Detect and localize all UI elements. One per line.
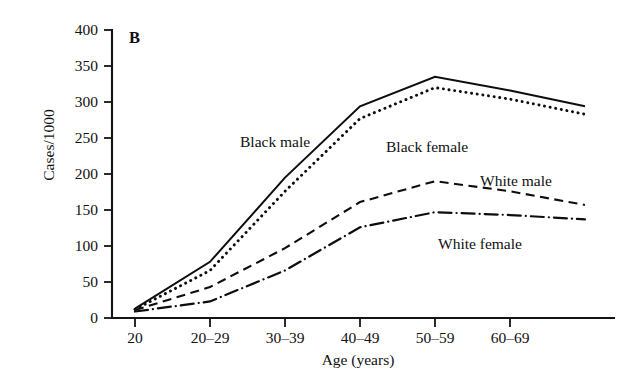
series-line-black-female <box>135 88 585 310</box>
y-axis-tick-label: 300 <box>52 93 98 111</box>
panel-letter: B <box>129 28 140 48</box>
x-axis-tick-label: 30–39 <box>242 329 328 347</box>
y-axis-tick-label: 150 <box>52 201 98 219</box>
x-axis-tick-label: 20 <box>92 329 178 347</box>
y-axis-ticks <box>104 30 112 318</box>
series-label-black-male: Black male <box>240 133 310 151</box>
y-axis-tick-label: 200 <box>52 165 98 183</box>
x-axis-tick-label: 40–49 <box>317 329 403 347</box>
y-axis-tick-label: 400 <box>52 21 98 39</box>
x-axis-tick-label: 20–29 <box>167 329 253 347</box>
y-axis-tick-label: 50 <box>52 273 98 291</box>
y-axis-tick-label: 350 <box>52 57 98 75</box>
series-label-white-female: White female <box>438 235 522 253</box>
x-axis-tick-label: 50–59 <box>392 329 478 347</box>
y-axis-tick-label: 100 <box>52 237 98 255</box>
x-axis-ticks <box>135 318 510 327</box>
y-axis-tick-label: 250 <box>52 129 98 147</box>
series-label-black-female: Black female <box>386 138 468 156</box>
series-line-white-female <box>135 212 585 311</box>
y-axis-tick-label: 0 <box>52 309 98 327</box>
x-axis-tick-label: 60–69 <box>467 329 553 347</box>
y-axis-title: Cases/1000 <box>40 65 58 225</box>
data-series-group <box>135 77 585 312</box>
figure-panel-b: 050100150200250300350400 2020–2930–3940–… <box>0 0 625 385</box>
series-label-white-male: White male <box>480 172 552 190</box>
x-axis-title: Age (years) <box>258 351 458 369</box>
